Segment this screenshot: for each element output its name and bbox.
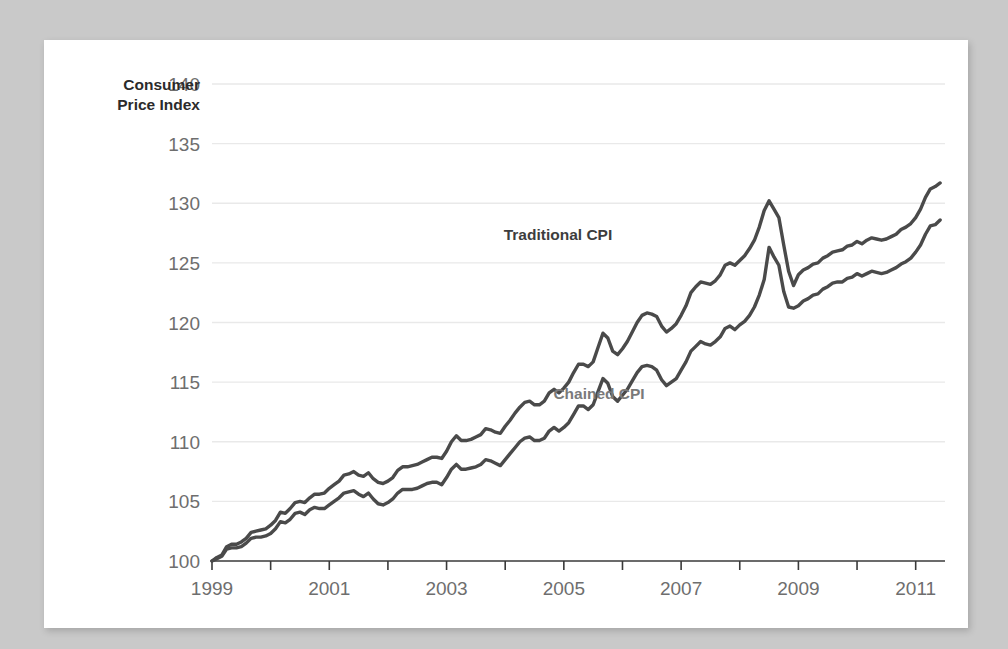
annotation-traditional-cpi: Traditional CPI (504, 226, 613, 243)
chart-card: 100105110115120125130135140 199920012003… (44, 40, 968, 628)
y-tick-label: 130 (168, 193, 200, 214)
x-tick-label: 2009 (777, 578, 819, 599)
y-tick-label: 125 (168, 253, 200, 274)
gridlines-group (212, 84, 945, 501)
annotation-chained-cpi: Chained CPI (553, 385, 644, 402)
cpi-line-chart: 100105110115120125130135140 199920012003… (44, 40, 968, 628)
x-tick-label: 2003 (425, 578, 467, 599)
x-axis-tick-marks (212, 561, 916, 570)
x-tick-label: 2011 (895, 578, 936, 599)
y-tick-label: 105 (168, 491, 200, 512)
y-tick-label: 115 (170, 372, 200, 393)
y-tick-label: 100 (168, 551, 200, 572)
y-tick-label: 120 (168, 313, 200, 334)
y-axis-tick-labels: 100105110115120125130135140 (168, 74, 200, 572)
x-tick-label: 2001 (308, 578, 350, 599)
y-tick-label: 110 (170, 432, 200, 453)
x-axis-tick-labels: 1999200120032005200720092011 (191, 578, 936, 599)
x-tick-label: 2005 (543, 578, 585, 599)
x-tick-label: 2007 (660, 578, 702, 599)
y-tick-label: 135 (168, 134, 200, 155)
series-annotations-group: Traditional CPIChained CPI (504, 226, 645, 402)
x-tick-label: 1999 (191, 578, 233, 599)
screenshot-root: 100105110115120125130135140 199920012003… (0, 0, 1008, 649)
